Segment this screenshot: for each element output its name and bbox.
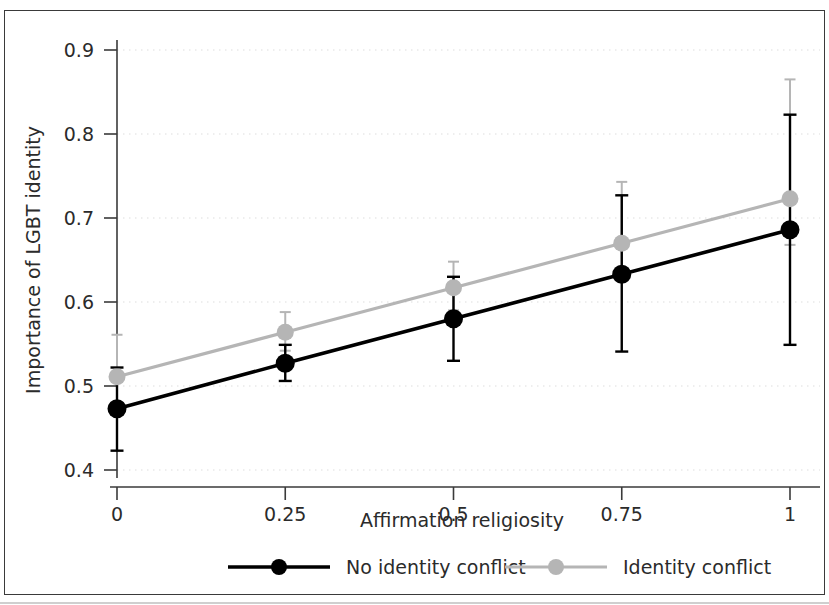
data-point-marker bbox=[445, 279, 462, 296]
data-point-marker bbox=[613, 235, 630, 252]
legend-marker-identity-conflict bbox=[548, 559, 564, 575]
data-point-marker bbox=[782, 190, 799, 207]
data-point-marker bbox=[781, 220, 800, 239]
y-tick-label-0.5: 0.5 bbox=[64, 375, 94, 397]
data-point-marker bbox=[612, 265, 631, 284]
y-tick-label-0.4: 0.4 bbox=[64, 459, 94, 481]
data-point-marker bbox=[109, 368, 126, 385]
legend-label-no-identity-conflict: No identity conflict bbox=[346, 556, 526, 578]
y-tick-label-0.8: 0.8 bbox=[64, 123, 94, 145]
y-tick-label-0.9: 0.9 bbox=[64, 39, 94, 61]
data-point-marker bbox=[276, 354, 295, 373]
data-point-marker bbox=[444, 309, 463, 328]
y-tick-label-0.6: 0.6 bbox=[64, 291, 94, 313]
data-point-marker bbox=[108, 399, 127, 418]
x-tick-label-0.75: 0.75 bbox=[601, 503, 643, 525]
series-markers-no-identity-conflict bbox=[108, 220, 800, 418]
legend-marker-no-identity-conflict bbox=[271, 559, 287, 575]
x-axis-title: Affirmation religiosity bbox=[360, 509, 564, 531]
x-tick-label-0.25: 0.25 bbox=[264, 503, 306, 525]
data-point-marker bbox=[277, 324, 294, 341]
y-tick-label-0.7: 0.7 bbox=[64, 207, 94, 229]
chart-legend: No identity conflict Identity conflict bbox=[228, 556, 771, 578]
x-tick-label-1: 1 bbox=[784, 503, 796, 525]
chart-figure: 0.40.50.60.70.80.9 00.250.50.751 Importa… bbox=[0, 0, 829, 605]
legend-label-identity-conflict: Identity conflict bbox=[623, 556, 771, 578]
gridlines-group bbox=[117, 50, 820, 470]
line-chart-canvas: 0.40.50.60.70.80.9 00.250.50.751 Importa… bbox=[0, 0, 829, 605]
y-axis-title: Importance of LGBT identity bbox=[22, 126, 44, 394]
x-tick-label-0: 0 bbox=[111, 503, 123, 525]
y-axis-ticks-group: 0.40.50.60.70.80.9 bbox=[64, 39, 117, 481]
